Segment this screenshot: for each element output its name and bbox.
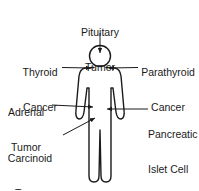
label-pituitary-tumor: Pituitary Tumor bbox=[74, 4, 126, 85]
label-line: Tumor bbox=[74, 62, 126, 74]
label-line: Adrenal bbox=[2, 107, 50, 119]
carcinoid-arrow bbox=[63, 118, 95, 135]
label-line: Pituitary bbox=[74, 27, 126, 39]
label-line: Carcinoid bbox=[3, 153, 57, 165]
label-line: Thyroid bbox=[16, 67, 64, 79]
label-carcinoid-tumor: Carcinoid Tumor bbox=[3, 130, 57, 190]
label-line: Pancreatic bbox=[148, 129, 199, 141]
label-line: Tumor bbox=[3, 188, 57, 191]
label-pancreatic-islet-cell-tumor: Pancreatic Islet Cell Tumor bbox=[148, 106, 199, 190]
label-line: Parathyroid bbox=[137, 67, 199, 79]
label-line: Islet Cell bbox=[148, 164, 199, 176]
